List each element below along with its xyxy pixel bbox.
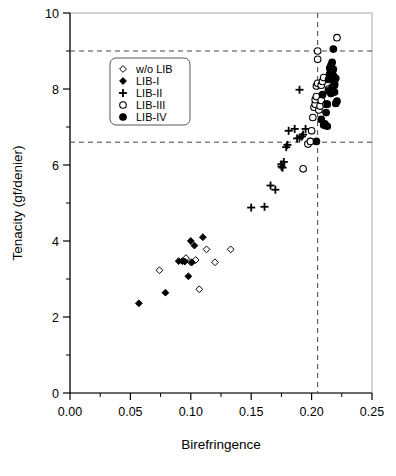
filled-circle-marker <box>334 98 341 105</box>
data-point <box>296 86 304 94</box>
series-w-o-lib <box>156 246 234 293</box>
open-diamond-marker <box>227 246 234 253</box>
x-tick-label: 0.10 <box>179 405 203 419</box>
open-circle-marker <box>334 34 341 41</box>
legend-marker-filled-circle <box>120 114 127 121</box>
data-point <box>308 128 315 135</box>
data-point <box>323 109 330 116</box>
data-point <box>162 289 169 296</box>
open-circle-marker <box>308 128 315 135</box>
x-tick-label: 0.20 <box>299 405 323 419</box>
legend-label: w/o LIB <box>135 63 173 75</box>
plot-canvas: 02468100.000.050.100.150.200.25 Birefrin… <box>0 0 396 476</box>
x-tick-label: 0.05 <box>118 405 142 419</box>
filled-circle-marker <box>331 82 338 89</box>
data-point <box>313 138 320 145</box>
y-tick-label: 8 <box>52 83 59 97</box>
filled-circle-marker <box>330 46 337 53</box>
data-point <box>199 234 206 241</box>
open-circle-marker <box>310 114 317 121</box>
open-circle-marker <box>314 48 321 55</box>
data-point <box>334 98 341 105</box>
scatter-plot-figure: 02468100.000.050.100.150.200.25 Birefrin… <box>0 0 396 476</box>
legend-label: LIB-I <box>136 75 159 87</box>
series-lib-i <box>135 234 206 307</box>
y-axis-title: Tenacity (gf/denier) <box>10 146 25 261</box>
filled-circle-marker <box>330 66 337 73</box>
y-tick-label: 2 <box>52 311 59 325</box>
filled-circle-marker <box>323 109 330 116</box>
data-point <box>332 75 339 82</box>
data-point <box>324 101 331 108</box>
data-point <box>196 286 203 293</box>
data-point <box>328 90 335 97</box>
legend-label: LIB-II <box>136 87 162 99</box>
data-point <box>247 204 255 212</box>
filled-diamond-marker <box>135 300 142 307</box>
filled-circle-marker <box>313 138 320 145</box>
filled-diamond-marker <box>199 234 206 241</box>
filled-circle-marker <box>332 75 339 82</box>
open-diamond-marker <box>196 286 203 293</box>
data-point <box>324 123 331 130</box>
data-point <box>314 48 321 55</box>
data-point <box>135 300 142 307</box>
open-diamond-marker <box>203 246 210 253</box>
data-point <box>260 203 268 211</box>
data-point <box>212 259 219 266</box>
x-axis-title: Birefringence <box>181 437 261 452</box>
series-lib-ii <box>247 86 309 212</box>
data-point <box>156 267 163 274</box>
data-point <box>330 46 337 53</box>
filled-circle-marker <box>328 90 335 97</box>
y-tick-label: 4 <box>52 235 59 249</box>
data-point <box>314 56 321 63</box>
filled-circle-marker <box>324 123 331 130</box>
open-diamond-marker <box>156 267 163 274</box>
x-tick-label: 0.15 <box>239 405 263 419</box>
data-point <box>300 166 307 173</box>
filled-diamond-marker <box>185 273 192 280</box>
open-circle-marker <box>120 102 127 109</box>
y-tick-label: 10 <box>45 7 59 21</box>
legend-marker-open-circle <box>120 102 127 109</box>
data-point <box>267 182 275 190</box>
data-point <box>203 246 210 253</box>
data-point <box>319 91 326 98</box>
filled-diamond-marker <box>162 289 169 296</box>
data-point <box>227 246 234 253</box>
filled-circle-marker <box>324 101 331 108</box>
legend-label: LIB-III <box>136 99 165 111</box>
x-tick-label: 0.25 <box>360 405 384 419</box>
data-point <box>331 82 338 89</box>
x-tick-label: 0.00 <box>58 405 82 419</box>
data-point <box>329 59 336 66</box>
filled-circle-marker <box>120 114 127 121</box>
legend-label: LIB-IV <box>136 111 167 123</box>
filled-circle-marker <box>329 59 336 66</box>
legend: w/o LIBLIB-ILIB-IILIB-IIILIB-IV <box>110 58 190 125</box>
open-circle-marker <box>300 166 307 173</box>
y-tick-label: 6 <box>52 159 59 173</box>
data-point <box>330 66 337 73</box>
open-diamond-marker <box>212 259 219 266</box>
y-tick-label: 0 <box>52 387 59 401</box>
filled-circle-marker <box>319 91 326 98</box>
data-point <box>271 186 279 194</box>
data-point <box>185 273 192 280</box>
open-circle-marker <box>314 56 321 63</box>
data-point <box>310 114 317 121</box>
data-point <box>334 34 341 41</box>
